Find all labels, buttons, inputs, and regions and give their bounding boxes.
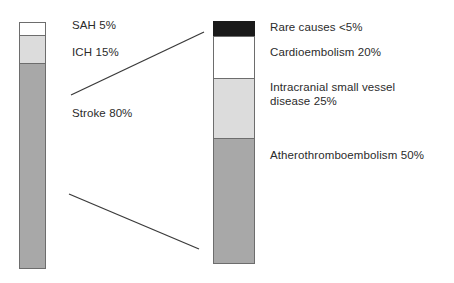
connector-line-lower: [69, 194, 199, 249]
bar-segment-sah: [19, 22, 46, 35]
bar-segment-rare-causes: [213, 21, 255, 36]
connector-line-upper: [71, 32, 204, 95]
label-intracranial-small-vessel: Intracranial small vessel disease 25%: [270, 80, 420, 108]
bar-segment-cardioembolism: [213, 36, 255, 77]
bar-segment-atherothromboembolism: [213, 138, 255, 264]
stroke-subtype-figure: SAH 5% ICH 15% Stroke 80% Rare causes <5…: [0, 0, 454, 283]
label-atherothromboembolism: Atherothromboembolism 50%: [270, 148, 424, 162]
bar-all-strokes: [19, 22, 46, 269]
label-cardioembolism: Cardioembolism 20%: [270, 45, 381, 59]
bar-segment-ich: [19, 35, 46, 63]
bar-stroke-subtypes: [213, 21, 255, 264]
label-stroke: Stroke 80%: [72, 106, 132, 120]
label-ich: ICH 15%: [72, 45, 119, 59]
label-sah: SAH 5%: [72, 18, 116, 32]
label-rare-causes: Rare causes <5%: [270, 20, 363, 34]
bar-segment-intracranial-small-vessel: [213, 78, 255, 139]
bar-segment-stroke: [19, 63, 46, 269]
